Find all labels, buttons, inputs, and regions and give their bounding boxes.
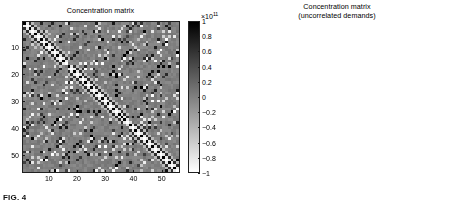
colorbar-tick-label: −0.2	[202, 109, 216, 116]
y-tick-label: 40	[5, 125, 19, 132]
colorbar-tick-mark	[198, 82, 201, 83]
colorbar-tick-label: 0.2	[202, 78, 212, 85]
panel-left-title: Concentration matrix	[18, 7, 183, 16]
x-tick-label: 50	[158, 175, 166, 182]
x-tick-mark	[77, 170, 78, 173]
figure-concentration-matrices: Concentration matrix 1020304050102030405…	[0, 0, 453, 205]
colorbar-tick-mark	[198, 21, 201, 22]
y-tick-mark	[22, 128, 25, 129]
y-tick-mark	[22, 47, 25, 48]
colorbar-tick-label: −0.8	[202, 154, 216, 161]
x-tick-mark	[105, 170, 106, 173]
colorbar-tick-label: 0.4	[202, 63, 212, 70]
colorbar-tick-label: 0.8	[202, 33, 212, 40]
y-tick-label: 50	[5, 152, 19, 159]
colorbar-tick-mark	[198, 112, 201, 113]
colorbar-tick-mark	[198, 158, 201, 159]
panel-right-title: Concentration matrix (uncorrelated deman…	[252, 3, 422, 20]
heatmap-axes-left	[22, 21, 180, 173]
x-tick-label: 30	[101, 175, 109, 182]
colorbar-tick-mark	[198, 143, 201, 144]
colorbar-tick-mark	[198, 67, 201, 68]
colorbar-tick-label: −1	[202, 170, 210, 177]
colorbar-tick-label: −0.4	[202, 124, 216, 131]
colorbar-exponent-left: ×1011	[201, 11, 218, 20]
x-tick-mark	[162, 170, 163, 173]
y-tick-label: 30	[5, 98, 19, 105]
y-tick-label: 20	[5, 70, 19, 77]
x-tick-mark	[49, 170, 50, 173]
y-tick-label: 10	[5, 43, 19, 50]
colorbar-tick-mark	[198, 36, 201, 37]
panel-left: Concentration matrix 1020304050102030405…	[0, 0, 226, 205]
colorbar-tick-mark	[198, 173, 201, 174]
colorbar-tick-mark	[198, 127, 201, 128]
x-tick-label: 40	[130, 175, 138, 182]
colorbar-tick-mark	[198, 51, 201, 52]
panel-right: Concentration matrix (uncorrelated deman…	[226, 0, 453, 205]
y-tick-mark	[22, 155, 25, 156]
colorbar-tick-label: 0.6	[202, 48, 212, 55]
colorbar-tick-label: 0	[202, 94, 206, 101]
y-tick-mark	[22, 101, 25, 102]
y-tick-mark	[22, 74, 25, 75]
figure-caption: FIG. 4	[3, 193, 26, 204]
x-tick-mark	[133, 170, 134, 173]
x-tick-label: 20	[73, 175, 81, 182]
colorbar-tick-mark	[198, 97, 201, 98]
heatmap-image-left	[23, 22, 179, 172]
x-tick-label: 10	[45, 175, 53, 182]
colorbar-tick-label: −0.6	[202, 139, 216, 146]
